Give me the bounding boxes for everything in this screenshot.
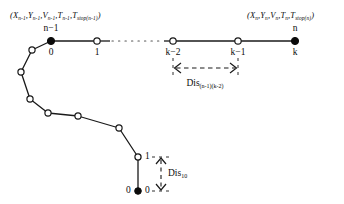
curve-node-4-marker (45, 110, 51, 116)
curve-node-1-marker (29, 47, 35, 53)
bottom-node-upper-label: 1 (145, 152, 150, 162)
bottom-node-lower-left-label: 0 (126, 186, 131, 196)
node-n-minus-1-marker-filled (47, 37, 54, 44)
node-k-minus-2-bottom-label: k−2 (166, 48, 181, 58)
node-n-minus-1-top-label: n−1 (44, 24, 59, 34)
figure-root: (Xn-1,Yn-1,Vn-1,Tn-1,Tstop(n-1)) (Xn,Yn,… (0, 0, 344, 204)
dis-lower-subscript: 10 (181, 173, 187, 179)
node-n-minus-1-bottom-label: 0 (49, 48, 54, 58)
curve-node-6-marker (116, 125, 122, 131)
curve-node-8-marker-filled (135, 188, 142, 195)
node-k-minus-1-bottom-label: k−1 (231, 48, 246, 58)
node-n-marker-filled (291, 37, 298, 44)
coordinate-tuple-right: (Xn,Yn,Vn,Tn,Tstop(n)) (247, 11, 314, 20)
node-k-bottom-label: k (293, 48, 298, 58)
curve-node-7-marker (135, 154, 141, 160)
node-k-minus-1-marker (235, 38, 241, 44)
dis-lower-text: Dis (168, 168, 181, 178)
curve-node-2-marker (18, 69, 24, 75)
curve-node-markers (18, 47, 141, 194)
dis-upper-subscript: (n-1)(k-2) (200, 83, 224, 89)
bottom-node-lower-right-label: 0 (145, 186, 150, 196)
measure-upper-arrow (173, 58, 238, 77)
node-k-minus-2-marker (170, 38, 176, 44)
dis-upper-label: Dis(n-1)(k-2) (186, 79, 223, 89)
dis-lower-label: Dis10 (168, 169, 187, 179)
curve-node-5-marker (75, 113, 81, 119)
curve-node-3-marker (27, 96, 33, 102)
node-n-top-label: n (293, 24, 298, 34)
dis-upper-text: Dis (186, 78, 199, 88)
coordinate-tuple-left: (Xn-1,Yn-1,Vn-1,Tn-1,Tstop(n-1)) (10, 11, 101, 20)
node-1-bottom-label: 1 (95, 48, 100, 58)
node-1-marker (94, 38, 100, 44)
